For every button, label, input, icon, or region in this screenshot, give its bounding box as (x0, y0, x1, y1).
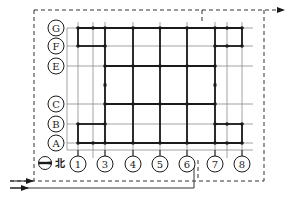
row-label-e: E (52, 61, 59, 72)
north-label: 北 (55, 157, 65, 169)
col-label-6: 6 (184, 159, 190, 170)
row-label-c: C (52, 99, 60, 110)
row-label-f: F (53, 41, 60, 52)
row-label-g: G (52, 23, 60, 34)
row-label-b: B (52, 119, 59, 130)
north-arrow-icon (39, 157, 52, 170)
col-label-1: 1 (75, 159, 81, 170)
col-label-8: 8 (239, 159, 245, 170)
bold-grid-lines (78, 28, 242, 143)
row-label-a: A (51, 138, 60, 149)
col-label-7: 7 (212, 159, 218, 170)
col-label-3: 3 (102, 159, 108, 170)
site-plan-diagram: G F E C B A 1 3 4 5 6 7 8 北 (0, 0, 293, 203)
col-label-5: 5 (157, 159, 163, 170)
col-label-4: 4 (130, 159, 136, 170)
